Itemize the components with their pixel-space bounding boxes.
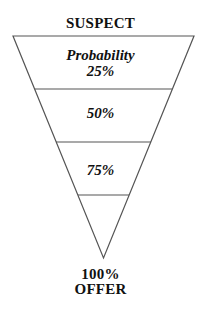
funnel-bottom-percent: 100% <box>0 267 201 282</box>
stage-3-percent: 75% <box>0 163 201 178</box>
stage-1-percent: 25% <box>0 64 201 79</box>
stage-2-percent: 50% <box>0 106 201 121</box>
funnel-bottom-label: OFFER <box>0 282 201 297</box>
stage-1-title: Probability <box>0 48 201 63</box>
